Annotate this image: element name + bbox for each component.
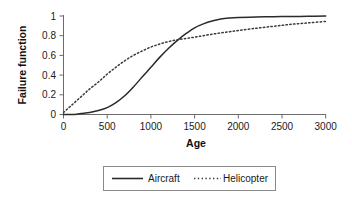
y-axis-title: Failure function (16, 26, 28, 105)
chart-figure: 0 0.2 0.4 0.6 0.8 1 0 500 1000 1500 2000… (0, 0, 352, 204)
y-axis-ticks (60, 16, 64, 115)
x-tick-label: 1000 (140, 121, 163, 132)
legend-label-helicopter: Helicopter (223, 173, 269, 184)
x-tick-label: 3000 (315, 121, 338, 132)
y-tick-label: 0.2 (42, 89, 56, 100)
failure-function-line-chart: 0 0.2 0.4 0.6 0.8 1 0 500 1000 1500 2000… (0, 0, 352, 204)
y-tick-label: 0.6 (42, 50, 56, 61)
series-line-helicopter (64, 21, 326, 112)
y-tick-labels: 0 0.2 0.4 0.6 0.8 1 (42, 11, 56, 121)
legend-label-aircraft: Aircraft (148, 173, 180, 184)
x-tick-label: 2500 (271, 121, 294, 132)
y-tick-label: 1 (50, 11, 56, 22)
x-tick-label: 2000 (227, 121, 250, 132)
x-axis-title: Age (186, 137, 206, 149)
x-tick-label: 1500 (183, 121, 206, 132)
x-tick-label: 500 (99, 121, 116, 132)
y-tick-label: 0.8 (42, 30, 56, 41)
chart-legend: Aircraft Helicopter (104, 167, 276, 191)
x-tick-labels: 0 500 1000 1500 2000 2500 3000 (61, 121, 338, 132)
x-axis-ticks (64, 115, 326, 119)
x-tick-label: 0 (61, 121, 67, 132)
y-tick-label: 0.4 (42, 70, 56, 81)
series-line-aircraft (64, 16, 326, 114)
y-tick-label: 0 (50, 109, 56, 120)
